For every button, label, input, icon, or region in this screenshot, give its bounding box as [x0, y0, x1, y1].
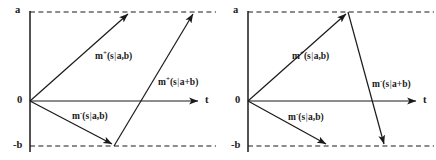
vec-close: a+b): [180, 77, 199, 87]
vec-close: a,b): [117, 51, 133, 61]
vector-label-m-minus-s-given-a-b: m-(s|a,b): [72, 112, 108, 122]
vector-label-m-plus-s-given-a-b: m+(s|a,b): [95, 52, 132, 62]
vec-open: (s: [107, 51, 114, 61]
vector-m-minus-s-given-a-plus-b: [348, 12, 384, 144]
vec-close: a+b): [392, 79, 411, 89]
vec-close: a,b): [92, 111, 108, 121]
axis-label-a: a: [233, 5, 238, 16]
panel-left: a 0 -b t m+(s|a,b) m-(s|a,b) m+(s|a+b): [0, 0, 218, 160]
vector-label-m-plus-s-given-a-plus-b: m+(s|a+b): [158, 78, 198, 88]
vector-label-m-minus-s-given-a-b: m-(s|a,b): [288, 113, 324, 123]
axis-label-t: t: [423, 95, 427, 106]
axis-label-origin: 0: [235, 95, 240, 106]
vec-m: m: [288, 112, 296, 122]
axis-label-a: a: [15, 5, 20, 16]
vec-close: a,b): [314, 51, 330, 61]
axis-label-minus-b: -b: [13, 140, 22, 151]
axis-label-origin: 0: [17, 95, 22, 106]
vector-m-minus-s-given-a-b: [30, 101, 112, 144]
vec-open: (s: [170, 77, 177, 87]
vec-open: (s: [304, 51, 311, 61]
vec-m: m: [372, 79, 380, 89]
panel-right: a 0 -b t m+(s|a,b) m-(s|a,b) m-(s|a+b): [218, 0, 436, 160]
vector-m-minus-s-given-a-b: [248, 101, 326, 144]
vec-m: m: [158, 77, 166, 87]
axis-label-t: t: [205, 95, 209, 106]
vec-m: m: [95, 51, 103, 61]
vec-m: m: [72, 111, 80, 121]
vector-label-m-minus-s-given-a-plus-b: m-(s|a+b): [372, 80, 411, 90]
vec-m: m: [292, 51, 300, 61]
axis-label-minus-b: -b: [231, 140, 240, 151]
figure-container: a 0 -b t m+(s|a,b) m-(s|a,b) m+(s|a+b) a…: [0, 0, 436, 160]
vector-label-m-plus-s-given-a-b: m+(s|a,b): [292, 52, 329, 62]
vec-close: a,b): [308, 112, 324, 122]
